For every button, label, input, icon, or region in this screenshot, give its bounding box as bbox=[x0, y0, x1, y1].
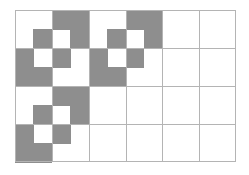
shaded-square bbox=[70, 29, 89, 49]
shaded-square bbox=[70, 10, 89, 30]
shaded-square bbox=[52, 124, 71, 144]
shaded-square bbox=[89, 67, 108, 87]
grid-line-horizontal bbox=[15, 48, 236, 49]
shaded-square bbox=[126, 10, 145, 30]
grid-line-horizontal bbox=[15, 10, 236, 11]
shaded-square bbox=[15, 143, 34, 163]
shaded-square bbox=[144, 29, 163, 49]
shaded-square bbox=[52, 48, 71, 68]
grid-line-horizontal bbox=[15, 86, 236, 87]
shaded-square bbox=[33, 105, 52, 125]
shaded-square bbox=[70, 105, 89, 125]
shaded-square bbox=[107, 67, 126, 87]
shaded-square bbox=[33, 67, 52, 87]
shaded-square bbox=[52, 86, 71, 106]
grid-line-horizontal bbox=[15, 161, 236, 162]
shaded-square bbox=[33, 143, 52, 163]
shaded-square bbox=[70, 86, 89, 106]
shaded-square bbox=[15, 67, 34, 87]
shaded-square bbox=[15, 48, 34, 68]
shaded-square bbox=[144, 10, 163, 30]
shaded-square bbox=[15, 124, 34, 144]
shaded-square bbox=[126, 48, 145, 68]
grid-line-horizontal bbox=[15, 124, 236, 125]
shaded-square bbox=[33, 29, 52, 49]
shaded-square bbox=[89, 48, 108, 68]
shaded-square bbox=[107, 29, 126, 49]
shaded-square bbox=[52, 10, 71, 30]
tile-grid bbox=[15, 10, 236, 162]
